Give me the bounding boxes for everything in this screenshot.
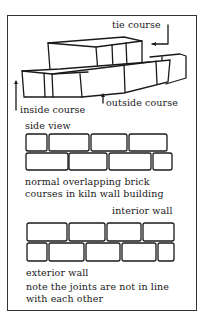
note-line1: note the joints are not in line bbox=[26, 281, 169, 292]
exterior-wall-label: exterior wall bbox=[26, 267, 88, 278]
note-line2: with each other bbox=[26, 293, 103, 304]
